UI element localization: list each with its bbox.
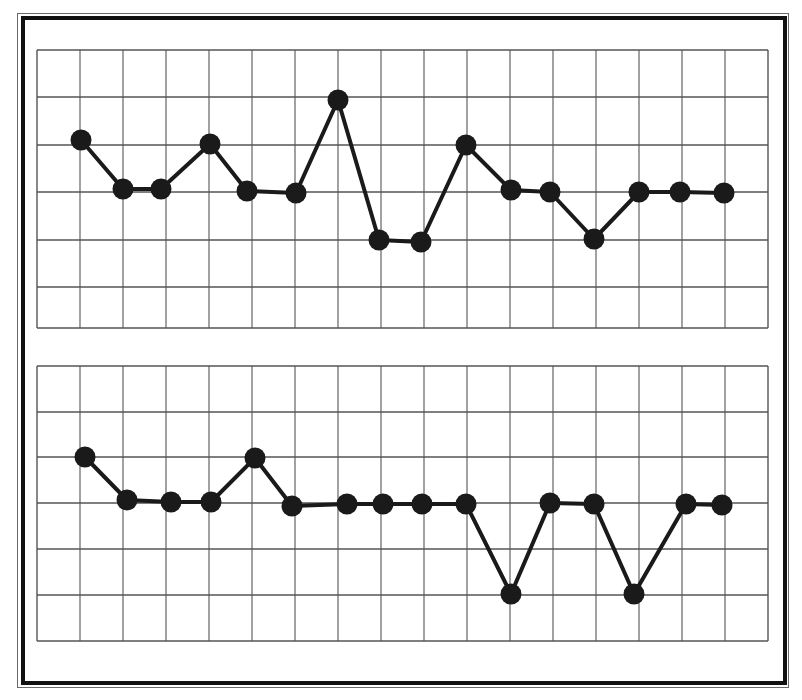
bottom-line-chart xyxy=(37,366,768,641)
data-point-marker xyxy=(584,229,605,250)
data-point-marker xyxy=(151,179,172,200)
data-point-marker xyxy=(201,492,222,513)
control-charts xyxy=(0,0,802,700)
data-point-marker xyxy=(501,584,522,605)
data-point-marker xyxy=(624,584,645,605)
data-point-marker xyxy=(117,490,138,511)
data-point-marker xyxy=(456,494,477,515)
bottom-chart-markers xyxy=(75,447,733,605)
bottom-chart-line xyxy=(85,457,722,594)
top-line-chart xyxy=(37,50,768,328)
data-point-marker xyxy=(245,448,266,469)
data-point-marker xyxy=(200,134,221,155)
data-point-marker xyxy=(71,130,92,151)
data-point-marker xyxy=(113,179,134,200)
data-point-marker xyxy=(584,494,605,515)
data-point-marker xyxy=(412,494,433,515)
data-point-marker xyxy=(369,230,390,251)
data-point-marker xyxy=(282,496,303,517)
data-point-marker xyxy=(337,494,358,515)
data-point-marker xyxy=(411,232,432,253)
data-point-marker xyxy=(286,183,307,204)
data-point-marker xyxy=(540,493,561,514)
data-point-marker xyxy=(501,180,522,201)
data-point-marker xyxy=(237,181,258,202)
data-point-marker xyxy=(670,182,691,203)
data-point-marker xyxy=(712,495,733,516)
top-chart-line xyxy=(81,100,724,242)
data-point-marker xyxy=(540,182,561,203)
data-point-marker xyxy=(75,447,96,468)
data-point-marker xyxy=(456,135,477,156)
data-point-marker xyxy=(373,494,394,515)
data-point-marker xyxy=(328,90,349,111)
data-point-marker xyxy=(161,492,182,513)
top-chart-markers xyxy=(71,90,735,253)
data-point-marker xyxy=(714,183,735,204)
data-point-marker xyxy=(629,182,650,203)
data-point-marker xyxy=(676,494,697,515)
